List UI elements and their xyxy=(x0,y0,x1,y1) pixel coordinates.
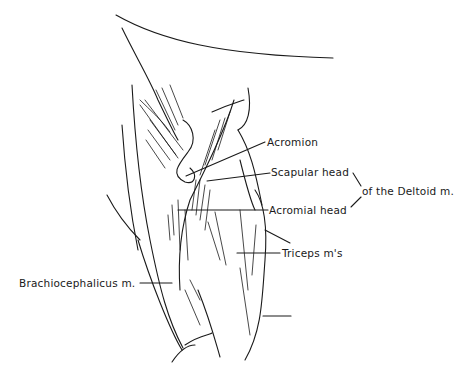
label-deltoid-group: of the Deltoid m. xyxy=(362,185,454,197)
label-acromion: Acromion xyxy=(267,136,318,148)
label-acromial-head: Acromial head xyxy=(269,204,347,216)
deltoid-anatomy-figure: Acromion Scapular head of the Deltoid m.… xyxy=(0,0,470,388)
label-brachiocephalicus: Brachiocephalicus m. xyxy=(19,277,135,289)
label-scapular-head: Scapular head xyxy=(271,166,349,178)
label-triceps: Triceps m's xyxy=(282,247,343,259)
